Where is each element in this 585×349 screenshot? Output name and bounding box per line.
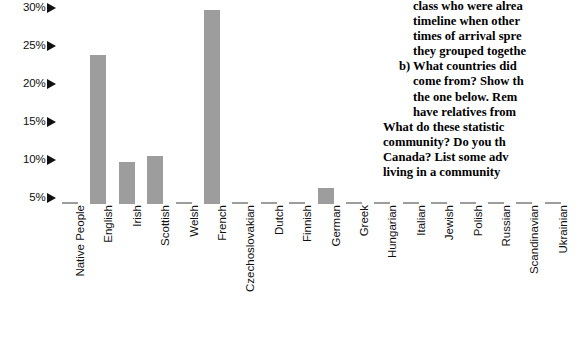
x-axis-labels: Native PeopleEnglishIrishScottishWelshFr…: [58, 205, 585, 349]
y-axis-tick-label: 30%: [23, 2, 45, 14]
x-axis-label: English: [103, 205, 115, 243]
triangle-marker-icon: [47, 41, 56, 51]
y-axis-tick-label: 15%: [23, 116, 45, 128]
bar: [318, 188, 334, 204]
worksheet-text-line: the one below. Rem: [383, 90, 585, 105]
x-axis-label: Native People: [75, 205, 87, 277]
bar: [147, 156, 163, 204]
x-axis-label: Scandinavian: [529, 205, 541, 274]
worksheet-text-line: class who were alrea: [383, 0, 585, 14]
bar: [119, 162, 135, 204]
x-axis-label: Irish: [132, 205, 144, 227]
worksheet-text-line: living in a community: [383, 165, 585, 180]
worksheet-text-block: class who were alreatimeline when othert…: [383, 0, 585, 189]
bar: [289, 202, 305, 204]
worksheet-text-line: come from? Show th: [383, 74, 585, 89]
x-axis-label: Czechoslovakian: [245, 205, 257, 292]
worksheet-text-line: have relatives from: [383, 105, 585, 120]
x-axis-label: Jewish: [444, 205, 456, 240]
worksheet-text-line: What do these statistic: [383, 120, 585, 135]
y-axis-tick-label: 10%: [23, 154, 45, 166]
y-axis: 5%10%15%20%25%30%: [0, 0, 58, 215]
triangle-marker-icon: [47, 79, 56, 89]
triangle-marker-icon: [47, 193, 56, 203]
bar: [176, 202, 192, 204]
triangle-marker-icon: [47, 117, 56, 127]
bar: [232, 202, 248, 204]
x-axis-label: Russian: [501, 205, 513, 247]
triangle-marker-icon: [47, 3, 56, 13]
y-axis-tick-label: 5%: [29, 192, 45, 204]
bar: [488, 202, 504, 204]
chart-page: 5%10%15%20%25%30% Native PeopleEnglishIr…: [0, 0, 585, 349]
bar: [403, 202, 419, 204]
x-axis-label: Ukrainian: [558, 205, 570, 254]
x-axis-label: German: [331, 205, 343, 247]
worksheet-text-line: they grouped togethe: [383, 44, 585, 59]
bar: [261, 202, 277, 204]
bar: [62, 202, 78, 204]
bar: [346, 202, 362, 204]
x-axis-label: Dutch: [274, 205, 286, 235]
y-axis-tick-label: 20%: [23, 78, 45, 90]
x-axis-label: Greek: [359, 205, 371, 236]
bar: [545, 202, 561, 204]
y-axis-tick: 25%: [0, 38, 58, 54]
y-axis-tick: 15%: [0, 114, 58, 130]
x-axis-label: Welsh: [189, 205, 201, 237]
bar: [431, 202, 447, 204]
worksheet-text-line: b) What countries did: [383, 59, 585, 74]
x-axis-label: Scottish: [160, 205, 172, 246]
y-axis-tick: 5%: [0, 190, 58, 206]
triangle-marker-icon: [47, 155, 56, 165]
x-axis-label: Polish: [473, 205, 485, 236]
bar: [516, 202, 532, 204]
y-axis-tick: 30%: [0, 0, 58, 16]
y-axis-tick: 20%: [0, 76, 58, 92]
worksheet-text-line: times of arrival spre: [383, 29, 585, 44]
worksheet-text-line: community? Do you th: [383, 135, 585, 150]
worksheet-text-line: timeline when other: [383, 14, 585, 29]
x-axis-label: French: [217, 205, 229, 241]
bar: [460, 202, 476, 204]
y-axis-tick-label: 25%: [23, 40, 45, 52]
bar: [204, 10, 220, 204]
x-axis-label: Hungarian: [387, 205, 399, 258]
worksheet-text-line: Canada? List some adv: [383, 150, 585, 165]
bar: [374, 202, 390, 204]
bar: [90, 55, 106, 204]
x-axis-label: Finnish: [302, 205, 314, 242]
y-axis-tick: 10%: [0, 152, 58, 168]
x-axis-label: Italian: [416, 205, 428, 236]
